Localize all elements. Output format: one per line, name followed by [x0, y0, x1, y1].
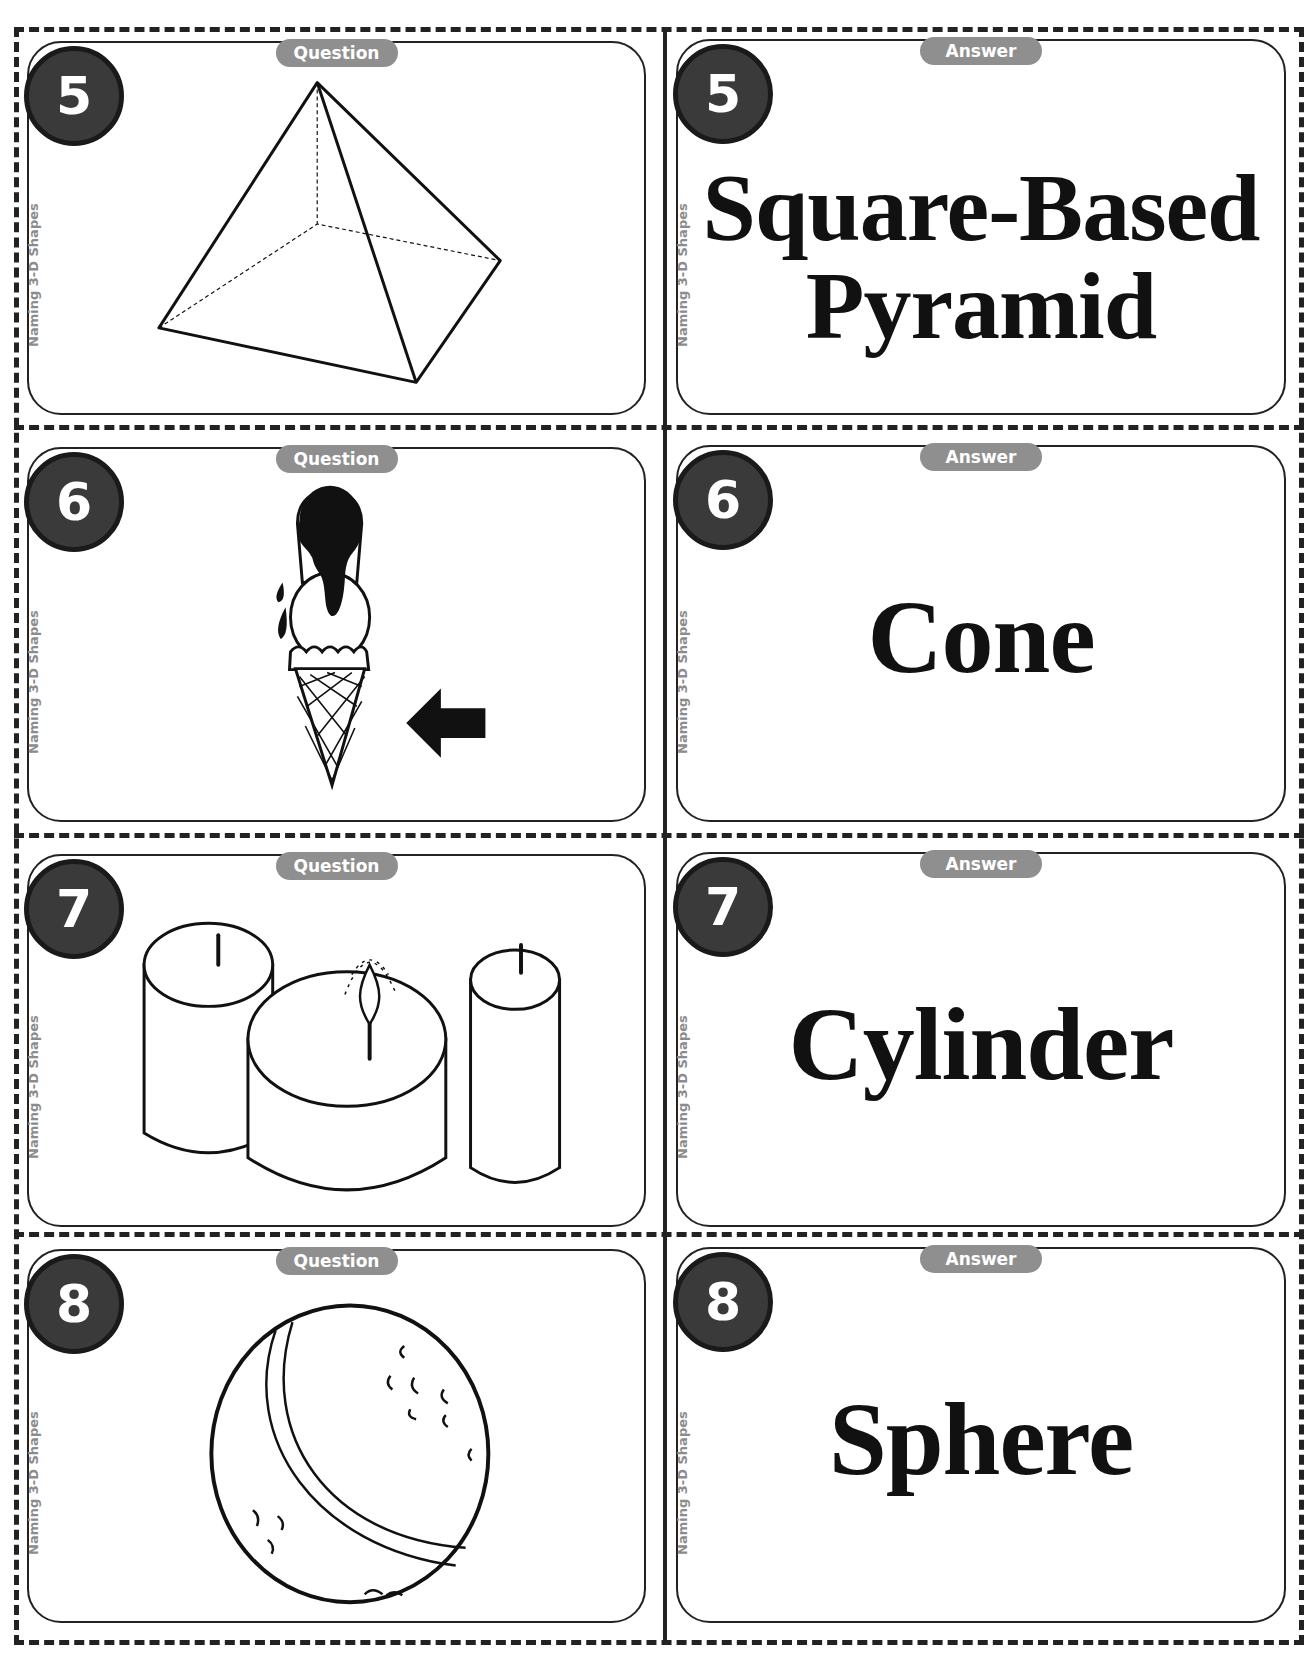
answer-pill: Answer	[920, 1245, 1042, 1273]
answer-pill: Answer	[920, 443, 1042, 471]
answer-card-5: 5 Answer Naming 3-D Shapes Square-Based …	[676, 39, 1286, 415]
cut-line-row-3	[14, 1232, 1304, 1237]
arrow-left-icon	[406, 688, 485, 757]
answer-pill: Answer	[920, 37, 1042, 65]
answer-text: Cylinder	[678, 989, 1284, 1099]
card-number-badge: 6	[673, 450, 773, 550]
answer-card-8: 8 Answer Naming 3-D Shapes Sphere	[676, 1247, 1286, 1623]
cut-line-row-1	[14, 425, 1304, 430]
pyramid-icon	[29, 43, 644, 413]
fold-line	[663, 27, 667, 1645]
flashcard-sheet: 5 Question Naming 3-D Shapes 5 Answer Na…	[14, 27, 1304, 1645]
answer-text: Square-Based Pyramid	[678, 159, 1284, 355]
answer-card-7: 7 Answer Naming 3-D Shapes Cylinder	[676, 852, 1286, 1227]
cropped-header-text	[0, 0, 1315, 8]
card-number-badge: 7	[673, 857, 773, 957]
card-number-badge: 8	[673, 1252, 773, 1352]
answer-text: Cone	[678, 582, 1284, 692]
cut-line-row-2	[14, 833, 1304, 838]
answer-pill: Answer	[920, 850, 1042, 878]
answer-card-6: 6 Answer Naming 3-D Shapes Cone	[676, 445, 1286, 822]
question-card-8: 8 Question Naming 3-D Shapes	[27, 1249, 646, 1623]
answer-text: Sphere	[678, 1384, 1284, 1494]
question-card-6: 6 Question Naming 3-D Shapes	[27, 447, 646, 822]
card-number-badge: 5	[673, 44, 773, 144]
cut-line-bottom	[14, 1640, 1304, 1645]
ball-icon	[29, 1251, 644, 1621]
question-card-5: 5 Question Naming 3-D Shapes	[27, 41, 646, 415]
ice-cream-cone-icon	[29, 449, 644, 820]
candles-icon	[29, 856, 644, 1225]
question-card-7: 7 Question Naming 3-D Shapes	[27, 854, 646, 1227]
cut-line-top	[14, 27, 1304, 32]
